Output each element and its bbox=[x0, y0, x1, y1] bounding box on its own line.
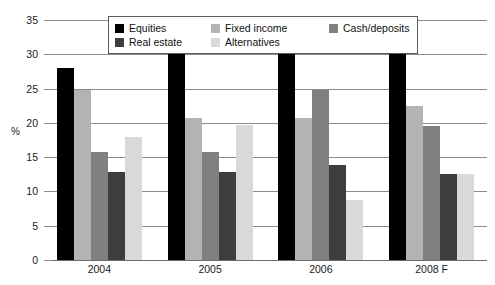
gridline bbox=[44, 260, 487, 261]
legend-swatch-cash-deposits bbox=[329, 24, 338, 33]
bar bbox=[329, 165, 346, 260]
bar bbox=[236, 125, 253, 260]
bar bbox=[91, 152, 108, 260]
legend-label: Cash/deposits bbox=[343, 23, 410, 34]
legend-label: Real estate bbox=[129, 37, 182, 48]
y-tick-label: 25 bbox=[12, 84, 38, 95]
y-tick-label: 35 bbox=[12, 15, 38, 26]
bar bbox=[312, 90, 329, 260]
legend-swatch-alternatives bbox=[211, 38, 220, 47]
y-tick-label: 0 bbox=[12, 255, 38, 266]
bar bbox=[202, 152, 219, 260]
x-axis-label: 2005 bbox=[155, 263, 266, 275]
legend-row: EquitiesFixed incomeCash/deposits bbox=[115, 21, 410, 35]
legend-label: Alternatives bbox=[225, 37, 280, 48]
bar bbox=[346, 200, 363, 260]
x-axis-labels: 2004200520062008 F bbox=[44, 263, 487, 275]
legend-item: Real estate bbox=[115, 37, 201, 48]
legend-swatch-fixed-income bbox=[211, 24, 220, 33]
bar bbox=[185, 118, 202, 260]
x-axis-label: 2004 bbox=[44, 263, 155, 275]
bar bbox=[168, 50, 185, 260]
bar-group bbox=[376, 20, 487, 260]
bar-groups bbox=[44, 20, 487, 260]
bar bbox=[295, 118, 312, 260]
y-tick-label: 30 bbox=[12, 49, 38, 60]
y-tick-label: 10 bbox=[12, 186, 38, 197]
bar-group bbox=[44, 20, 155, 260]
chart-legend: EquitiesFixed incomeCash/depositsReal es… bbox=[108, 16, 418, 54]
bar-group bbox=[155, 20, 266, 260]
bar bbox=[125, 137, 142, 260]
bar-group bbox=[266, 20, 377, 260]
bar bbox=[389, 50, 406, 260]
legend-item: Equities bbox=[115, 23, 201, 34]
bar bbox=[219, 172, 236, 260]
bar bbox=[108, 172, 125, 260]
legend-label: Fixed income bbox=[225, 23, 287, 34]
legend-item: Cash/deposits bbox=[329, 23, 410, 34]
legend-label: Equities bbox=[129, 23, 166, 34]
legend-swatch-equities bbox=[115, 24, 124, 33]
bar bbox=[57, 68, 74, 260]
x-axis-label: 2008 F bbox=[376, 263, 487, 275]
y-tick-label: 20 bbox=[12, 118, 38, 129]
bar bbox=[74, 90, 91, 260]
bar bbox=[406, 106, 423, 260]
legend-item: Alternatives bbox=[211, 37, 319, 48]
legend-row: Real estateAlternatives bbox=[115, 35, 410, 49]
legend-swatch-real-estate bbox=[115, 38, 124, 47]
bar bbox=[278, 50, 295, 261]
y-tick-mark bbox=[44, 260, 51, 261]
bar bbox=[457, 174, 474, 260]
bar bbox=[423, 126, 440, 260]
x-axis-label: 2006 bbox=[266, 263, 377, 275]
y-axis-ticks: 05101520253035 bbox=[8, 20, 38, 260]
bar bbox=[440, 174, 457, 260]
legend-item: Fixed income bbox=[211, 23, 319, 34]
y-tick-label: 15 bbox=[12, 152, 38, 163]
bar-chart: % 05101520253035 2004200520062008 F Equi… bbox=[0, 0, 495, 285]
y-tick-label: 5 bbox=[12, 221, 38, 232]
